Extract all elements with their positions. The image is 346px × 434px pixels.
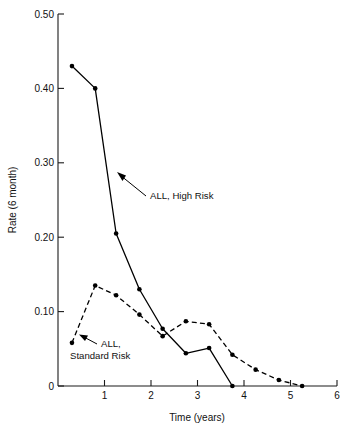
data-point <box>160 326 165 331</box>
y-axis-tick-labels: 0.50 0.40 0.30 0.20 0.10 0 <box>35 9 55 392</box>
series-line-high-risk <box>72 66 232 386</box>
data-point <box>207 346 212 351</box>
x-tick-label-6: 6 <box>334 390 340 401</box>
data-point <box>137 287 142 292</box>
x-tick-label-4: 4 <box>241 390 247 401</box>
data-point <box>253 367 258 372</box>
chart-svg: 0.50 0.40 0.30 0.20 0.10 0 1 2 3 4 5 6 T… <box>0 0 346 434</box>
series-line-standard-risk <box>72 286 302 386</box>
data-point <box>70 341 75 346</box>
data-point <box>93 283 98 288</box>
data-point <box>114 293 119 298</box>
x-axis-title: Time (years) <box>169 412 225 423</box>
data-point <box>184 351 189 356</box>
data-point <box>230 352 235 357</box>
y-tick-label-0.20: 0.20 <box>35 232 55 243</box>
data-point <box>230 384 235 389</box>
annotation-high-risk: ALL, High Risk <box>117 172 214 201</box>
series-markers-standard-risk <box>70 283 305 388</box>
data-point <box>93 86 98 91</box>
annotation-label-standard-risk-line2: Standard Risk <box>70 350 130 361</box>
annotation-label-high-risk: ALL, High Risk <box>150 190 214 201</box>
data-point <box>160 334 165 339</box>
data-point <box>114 231 119 236</box>
x-tick-label-1: 1 <box>102 390 108 401</box>
y-tick-label-0.50: 0.50 <box>35 9 55 20</box>
data-point <box>70 64 75 69</box>
data-point <box>300 384 305 389</box>
arrowhead-icon <box>117 172 126 181</box>
x-tick-label-5: 5 <box>288 390 294 401</box>
series-markers-high-risk <box>70 64 235 389</box>
annotation-standard-risk: ALL, Standard Risk <box>70 335 130 362</box>
data-point <box>137 312 142 317</box>
y-axis-title: Rate (6 month) <box>7 167 18 234</box>
data-point <box>207 322 212 327</box>
y-tick-label-0.40: 0.40 <box>35 83 55 94</box>
data-point <box>277 378 282 383</box>
arrowhead-icon <box>79 335 88 342</box>
x-axis-tick-labels: 1 2 3 4 5 6 <box>102 390 341 401</box>
x-tick-label-2: 2 <box>148 390 154 401</box>
data-point <box>184 319 189 324</box>
y-tick-label-0.30: 0.30 <box>35 157 55 168</box>
y-tick-label-0.10: 0.10 <box>35 306 55 317</box>
y-tick-label-0: 0 <box>48 381 54 392</box>
chart-figure: 0.50 0.40 0.30 0.20 0.10 0 1 2 3 4 5 6 T… <box>0 0 346 434</box>
annotation-label-standard-risk-line1: ALL, <box>101 338 121 349</box>
y-axis-ticks <box>58 14 64 386</box>
x-tick-label-3: 3 <box>195 390 201 401</box>
